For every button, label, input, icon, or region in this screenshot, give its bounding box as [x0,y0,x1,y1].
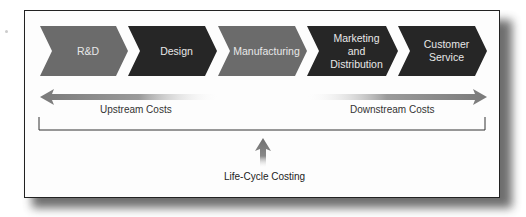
edge-mark [5,30,8,33]
stage-label: Marketing and Distribution [307,26,398,76]
stage-customer-service: Customer Service [398,26,487,76]
stage-label: R&D [40,26,128,76]
stage-design: Design [128,26,217,76]
downstream-costs-label: Downstream Costs [350,104,434,115]
life-cycle-costing-label: Life-Cycle Costing [224,171,305,182]
stage-rnd: R&D [40,26,128,76]
up-arrow-icon [255,138,271,168]
upstream-costs-label: Upstream Costs [100,104,172,115]
stage-label: Design [128,26,217,76]
life-cycle-bracket [38,116,488,132]
stage-manufacturing: Manufacturing [218,26,307,76]
stage-label: Manufacturing [218,26,307,76]
stage-marketing-distribution: Marketing and Distribution [307,26,398,76]
stage-label: Customer Service [398,26,487,76]
